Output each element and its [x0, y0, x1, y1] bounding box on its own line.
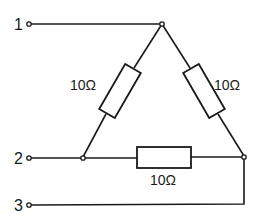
terminal-3-label: 3 [14, 197, 23, 214]
resistor-right-label: 10Ω [214, 77, 240, 93]
resistor-left [99, 64, 141, 118]
wire-left-upper [134, 24, 162, 68]
terminal-2-label: 2 [14, 150, 23, 167]
wire-right-upper [162, 24, 190, 68]
resistor-bottom [137, 147, 191, 168]
top-node [160, 22, 164, 26]
resistor-bottom-label: 10Ω [150, 172, 176, 188]
wire-left-lower [83, 114, 106, 157]
terminal-1-label: 1 [14, 16, 23, 33]
terminal-2-connector [27, 156, 31, 160]
left-node [81, 156, 85, 160]
terminal-1-connector [27, 22, 31, 26]
delta-circuit-diagram: 1 2 3 10Ω 10Ω 10Ω [0, 0, 261, 221]
right-node [242, 155, 246, 159]
wire-right-lower [218, 114, 244, 156]
terminal-3-connector [27, 203, 31, 207]
resistor-left-label: 10Ω [70, 77, 96, 93]
